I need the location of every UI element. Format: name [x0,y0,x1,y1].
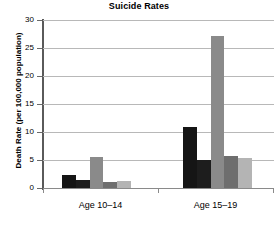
bar-series-2-age-15-19 [197,160,211,188]
bar-group-age-15-19 [183,20,252,188]
y-tick-label-0: 0 [8,184,34,192]
y-tick-label-30: 30 [8,16,34,24]
y-tick-label-25: 25 [8,44,34,52]
bar-series-2-age-10-14 [76,180,90,188]
suicide-rates-bar-chart: Suicide Rates Death Rate (per 100,000 po… [0,0,278,227]
bar-series-3-age-15-19 [211,36,225,188]
y-tick-label-15: 15 [8,100,34,108]
bar-series-1-age-15-19 [183,127,197,188]
y-tick-label-10: 10 [8,128,34,136]
y-tick-label-5: 5 [8,156,34,164]
chart-title: Suicide Rates [0,1,278,11]
x-axis-tick-middle [158,188,159,193]
bar-series-5-age-15-19 [238,158,252,188]
x-axis-tick-right [273,188,274,193]
bar-series-3-age-10-14 [90,157,104,188]
y-tick-label-20: 20 [8,72,34,80]
x-axis-tick-left [43,188,44,193]
x-tick-label-age-10-14: Age 10–14 [43,200,158,210]
bar-series-5-age-10-14 [117,181,131,188]
bar-series-4-age-15-19 [224,156,238,188]
plot-area [43,20,274,188]
bar-series-1-age-10-14 [62,175,76,188]
bar-group-age-10-14 [62,20,131,188]
y-axis-tick-labels: 30 25 20 15 10 5 0 [8,0,34,227]
x-tick-label-age-15-19: Age 15–19 [158,200,273,210]
